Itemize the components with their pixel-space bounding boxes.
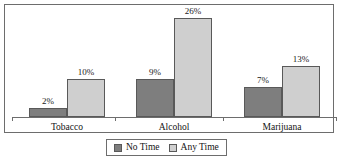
bar-group-alcohol-any: 26%: [174, 5, 212, 117]
legend-label-no-time: No Time: [126, 142, 160, 153]
bar-tobacco-no-time[interactable]: [29, 108, 67, 117]
legend-item-no-time[interactable]: No Time: [114, 142, 160, 153]
axis-tick-1: [115, 117, 116, 121]
bar-value-alcohol-any-time: 26%: [173, 6, 213, 16]
category-axis-line: [12, 117, 337, 118]
bar-value-tobacco-any-time: 10%: [66, 67, 106, 77]
chart-legend: No Time Any Time: [106, 139, 227, 156]
bar-value-marijuana-no-time: 7%: [243, 75, 283, 85]
bar-group-marijuana-any: 13%: [282, 5, 320, 117]
legend-label-any-time: Any Time: [181, 142, 219, 153]
bar-value-tobacco-no-time: 2%: [28, 96, 68, 106]
category-label-tobacco: Tobacco: [27, 122, 107, 133]
plot-area: 2% 10% Tobacco 9% 26% Alcohol 7% 13% Mar…: [5, 5, 334, 134]
bar-tobacco-any-time[interactable]: [67, 79, 105, 117]
legend-swatch-any-time-icon: [169, 144, 177, 152]
bar-group-marijuana: 7%: [244, 5, 282, 117]
legend-swatch-no-time-icon: [114, 144, 122, 152]
bar-group-tobacco: 2%: [29, 5, 67, 117]
bar-marijuana-any-time[interactable]: [282, 66, 320, 117]
legend-item-any-time[interactable]: Any Time: [169, 142, 219, 153]
axis-tick-start: [12, 117, 13, 121]
axis-tick-2: [223, 117, 224, 121]
bar-marijuana-no-time[interactable]: [244, 87, 282, 117]
bar-group-alcohol: 9%: [136, 5, 174, 117]
category-label-marijuana: Marijuana: [242, 122, 322, 133]
bar-value-marijuana-any-time: 13%: [281, 54, 321, 64]
bar-value-alcohol-no-time: 9%: [135, 67, 175, 77]
axis-tick-end: [336, 117, 337, 121]
bar-alcohol-any-time[interactable]: [174, 18, 212, 117]
category-label-alcohol: Alcohol: [134, 122, 214, 133]
bar-chart: 2% 10% Tobacco 9% 26% Alcohol 7% 13% Mar…: [0, 0, 339, 164]
bar-alcohol-no-time[interactable]: [136, 79, 174, 117]
bar-group-tobacco-any: 10%: [67, 5, 105, 117]
